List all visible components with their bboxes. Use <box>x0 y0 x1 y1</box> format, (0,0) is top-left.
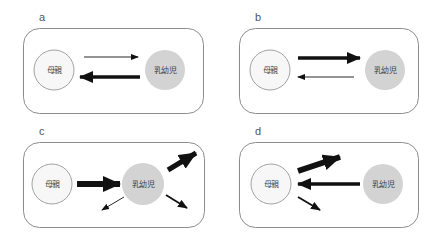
mother-infant-interaction-diagram: a 母親 乳幼児 b 母親 乳幼児 c 母親 乳幼児 d 母親 <box>0 0 443 237</box>
panel-d: d 母親 乳幼児 <box>240 125 419 228</box>
panel-c: c 母親 乳幼児 <box>24 125 205 228</box>
panel-b: b 母親 乳幼児 <box>240 11 419 114</box>
infant-label: 乳幼児 <box>374 65 397 75</box>
infant-label: 乳幼児 <box>132 179 155 189</box>
panel-label-a: a <box>39 11 46 23</box>
mother-label: 母親 <box>263 65 279 75</box>
mother-label: 母親 <box>264 179 280 189</box>
mother-label: 母親 <box>47 65 63 75</box>
infant-label: 乳幼児 <box>372 179 395 189</box>
mother-label: 母親 <box>45 179 61 189</box>
infant-label: 乳幼児 <box>154 65 177 75</box>
panel-label-c: c <box>39 125 45 137</box>
panel-label-b: b <box>255 11 261 23</box>
panel-a: a 母親 乳幼児 <box>24 11 204 114</box>
panel-label-d: d <box>255 125 261 137</box>
